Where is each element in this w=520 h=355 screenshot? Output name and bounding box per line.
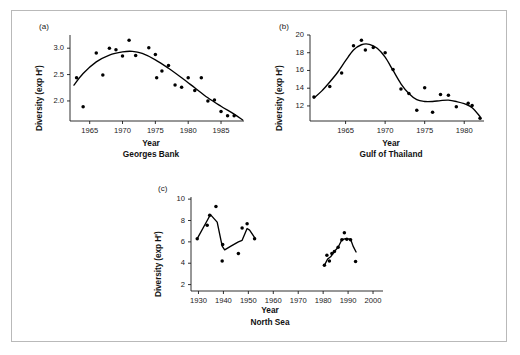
- x-tick-label: 1985: [205, 126, 237, 135]
- panel-a-caption: Georges Bank: [51, 149, 251, 159]
- x-tick-label: 1970: [107, 126, 139, 135]
- data-point: [213, 98, 217, 102]
- y-tick-label: 8: [161, 216, 185, 225]
- data-point: [108, 46, 112, 50]
- x-tick-label: 1965: [74, 126, 106, 135]
- x-tick-label: 1965: [330, 126, 362, 135]
- y-tick-label: 14: [280, 83, 304, 92]
- data-point: [127, 39, 131, 43]
- data-point: [349, 238, 353, 242]
- y-tick-label: 2.0: [40, 96, 64, 105]
- data-point: [423, 86, 427, 90]
- data-point: [447, 94, 451, 98]
- data-point: [193, 89, 197, 93]
- data-point: [101, 73, 105, 77]
- data-point: [134, 54, 138, 58]
- y-tick-label: 2: [161, 280, 185, 289]
- data-point: [173, 83, 177, 87]
- data-point: [114, 48, 118, 52]
- panel-c-caption: North Sea: [170, 317, 370, 327]
- data-point: [205, 224, 209, 228]
- y-tick-label: 10: [161, 194, 185, 203]
- data-point: [226, 114, 230, 118]
- data-point: [186, 76, 190, 80]
- trend-line-segment: [197, 215, 255, 250]
- data-point: [75, 76, 79, 80]
- data-point: [208, 213, 212, 217]
- x-tick-label: 1980: [448, 126, 480, 135]
- y-tick-label: 6: [161, 237, 185, 246]
- panel-a-x-axis-label: Year: [71, 138, 231, 148]
- data-point: [154, 53, 158, 57]
- y-tick-label: 16: [280, 65, 304, 74]
- data-point: [95, 51, 99, 55]
- panel-a-plot: [26, 21, 251, 156]
- data-point: [372, 46, 376, 50]
- data-point: [240, 226, 244, 230]
- data-point: [431, 110, 435, 114]
- data-point: [333, 250, 337, 254]
- panel-georges-bank: (a) Diversity (exp H') 19651970197519801…: [26, 21, 251, 156]
- data-point: [340, 71, 344, 75]
- panel-b-caption: Gulf of Thailand: [291, 149, 491, 159]
- data-point: [478, 117, 482, 121]
- y-tick-label: 3.0: [40, 43, 64, 52]
- y-tick-label: 18: [280, 48, 304, 57]
- data-point: [325, 253, 329, 257]
- data-point: [466, 102, 470, 106]
- figure-frame: (a) Diversity (exp H') 19651970197519801…: [11, 10, 507, 342]
- data-point: [328, 259, 332, 263]
- data-point: [399, 87, 403, 91]
- data-point: [439, 93, 443, 97]
- data-point: [219, 110, 223, 114]
- data-point: [391, 68, 395, 72]
- data-point: [343, 231, 347, 235]
- data-point: [221, 243, 225, 247]
- data-point: [328, 85, 332, 89]
- y-tick-label: 20: [280, 30, 304, 39]
- data-point: [147, 46, 151, 50]
- data-point: [232, 114, 236, 118]
- data-point: [352, 44, 356, 48]
- data-point: [312, 95, 316, 99]
- data-point: [81, 105, 85, 109]
- data-point: [155, 76, 159, 80]
- panel-b-x-axis-label: Year: [311, 138, 471, 148]
- x-tick-label: 1975: [139, 126, 171, 135]
- data-point: [195, 237, 199, 241]
- data-point: [237, 252, 241, 256]
- data-point: [415, 109, 419, 113]
- x-tick-label: 1970: [369, 126, 401, 135]
- data-point: [167, 64, 171, 68]
- data-point: [200, 76, 204, 80]
- panel-north-sea: (c) Diversity (exp H') 19301940195019601…: [145, 183, 390, 333]
- data-point: [214, 205, 218, 209]
- panel-gulf-of-thailand: (b) Diversity (exp H') 1965197019751980 …: [266, 21, 491, 156]
- data-point: [470, 104, 474, 108]
- data-point: [253, 237, 257, 241]
- data-point: [336, 245, 340, 249]
- x-tick-label: 1975: [409, 126, 441, 135]
- data-point: [407, 92, 411, 96]
- data-point: [206, 99, 210, 103]
- x-tick-label: 2000: [357, 296, 389, 305]
- data-point: [160, 69, 164, 73]
- data-point: [455, 105, 459, 109]
- x-tick-label: 1980: [172, 126, 204, 135]
- data-point: [364, 48, 368, 52]
- data-point: [354, 260, 358, 264]
- data-point: [121, 54, 125, 58]
- data-point: [245, 222, 249, 226]
- data-point: [220, 259, 224, 263]
- data-point: [323, 264, 327, 268]
- data-point: [360, 39, 364, 43]
- data-point: [345, 237, 349, 241]
- y-tick-label: 4: [161, 258, 185, 267]
- data-point: [383, 51, 387, 55]
- y-tick-label: 12: [280, 101, 304, 110]
- data-point: [340, 238, 344, 242]
- panel-c-x-axis-label: Year: [190, 305, 350, 315]
- y-tick-label: 2.5: [40, 70, 64, 79]
- data-point: [180, 85, 184, 89]
